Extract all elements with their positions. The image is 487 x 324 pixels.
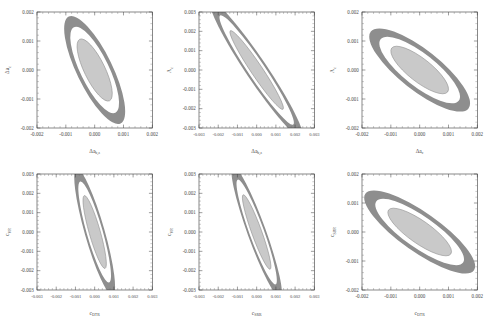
y-tick-label: 0.001 — [22, 38, 34, 44]
x-tick-label: 0.001 — [442, 131, 454, 137]
y-tick-label: 0.002 — [347, 9, 359, 15]
x-tick-label: 0.000 — [252, 132, 263, 137]
y-tick-label: -0.002 — [183, 267, 197, 273]
y-tick-label: 0.001 — [185, 47, 197, 53]
chart-panel-1: -0.002-0.0010.0000.0010.002-0.002-0.0010… — [0, 0, 162, 162]
y-tick-label: -0.002 — [345, 125, 359, 131]
y-tick-label: -0.001 — [183, 248, 197, 254]
contour-group-6 — [354, 178, 485, 287]
plot-area-6: -0.002-0.0010.0000.0010.002-0.002-0.0010… — [325, 162, 487, 324]
x-tick-label: 0.002 — [471, 293, 483, 299]
contour-1sigma — [239, 193, 275, 271]
x-axis-title-subscript: c — [421, 151, 423, 155]
x-tick-label: 0.000 — [90, 295, 101, 300]
y-tick-label: 0.000 — [185, 229, 197, 235]
y-tick-label: 0.002 — [185, 190, 197, 196]
y-tick-label: -0.002 — [21, 125, 35, 131]
x-axis-title: cDTR — [90, 310, 101, 318]
x-tick-label: 0.001 — [271, 132, 281, 137]
x-tick-label: -0.002 — [30, 131, 44, 137]
x-tick-label: -0.001 — [384, 293, 398, 299]
x-tick-label: -0.002 — [213, 295, 225, 300]
x-tick-label: 0.002 — [290, 132, 300, 137]
chart-panel-4: -0.003-0.002-0.0010.0000.0010.0020.003-0… — [0, 162, 162, 324]
plot-area-3: -0.002-0.0010.0000.0010.002-0.002-0.0010… — [325, 0, 487, 162]
x-axis-title-subscript: b,z — [95, 151, 100, 156]
x-axis-title: Δab,z — [89, 148, 100, 157]
y-tick-label: 0.000 — [22, 229, 34, 235]
y-tick-label: 0.000 — [22, 67, 34, 73]
x-tick-label: 0.001 — [109, 295, 119, 300]
x-tick-label: 0.002 — [290, 295, 300, 300]
x-tick-label: -0.002 — [213, 132, 225, 137]
y-tick-label: -0.003 — [183, 287, 197, 293]
y-tick-label: 0.001 — [185, 209, 197, 215]
chart-panel-6: -0.002-0.0010.0000.0010.002-0.002-0.0010… — [325, 162, 487, 324]
figure-panel-grid: -0.002-0.0010.0000.0010.002-0.002-0.0010… — [0, 0, 487, 324]
x-axis-title: cDTR — [414, 310, 425, 318]
plot-area-2: -0.003-0.002-0.0010.0000.0010.0020.003-0… — [162, 0, 324, 162]
x-tick-label: 0.001 — [271, 295, 281, 300]
chart-panel-2: -0.003-0.002-0.0010.0000.0010.0020.003-0… — [162, 0, 324, 162]
y-axis-title: cSRR — [329, 227, 336, 237]
x-axis-title-subscript: b,z — [258, 151, 263, 156]
x-tick-label: -0.003 — [194, 132, 206, 137]
chart-panel-5: -0.003-0.002-0.0010.0000.0010.0020.003-0… — [162, 162, 324, 324]
y-axis-title: cVR — [4, 228, 11, 236]
x-tick-label: 0.000 — [414, 131, 426, 137]
x-axis-title: Δac — [415, 148, 423, 156]
y-tick-label: 0.003 — [185, 9, 197, 15]
y-tick-label: 0.000 — [347, 67, 359, 73]
x-tick-label: -0.001 — [70, 295, 82, 300]
x-tick-label: 0.002 — [471, 131, 483, 137]
x-tick-label: -0.001 — [59, 131, 73, 137]
x-axis-title-subscript: DTR — [417, 314, 425, 318]
x-tick-label: -0.002 — [50, 295, 62, 300]
contour-group-4 — [67, 166, 122, 298]
x-tick-label: 0.003 — [147, 295, 158, 300]
x-tick-label: 0.003 — [310, 132, 321, 137]
contour-1sigma — [226, 28, 288, 113]
y-tick-label: 0.001 — [22, 209, 34, 215]
x-axis-title: Δab,z — [252, 148, 263, 157]
y-tick-label: 0.002 — [22, 9, 34, 15]
x-tick-label: -0.002 — [355, 131, 369, 137]
x-tick-label: -0.001 — [384, 131, 398, 137]
y-axis-title-subscript: c — [333, 67, 337, 69]
x-axis-title-subscript: DTR — [92, 314, 100, 318]
y-tick-label: 0.003 — [185, 171, 197, 177]
x-tick-label: 0.001 — [118, 131, 130, 137]
x-tick-label: 0.002 — [128, 295, 138, 300]
y-axis-title-subscript: c — [170, 67, 174, 69]
contour-group-5 — [225, 163, 290, 300]
x-axis-title-subscript: SRR — [255, 314, 263, 318]
y-tick-label: -0.001 — [21, 96, 35, 102]
y-axis-title: Λc — [167, 67, 174, 73]
y-tick-label: -0.002 — [183, 105, 197, 111]
x-tick-label: 0.001 — [442, 293, 454, 299]
x-tick-label: 0.003 — [310, 295, 321, 300]
y-axis-title: Δac — [4, 66, 11, 74]
y-tick-label: 0.000 — [185, 67, 197, 73]
plot-area-5: -0.003-0.002-0.0010.0000.0010.0020.003-0… — [162, 162, 324, 324]
y-axis-title-subscript: VR — [8, 228, 12, 234]
y-axis-title: Λc — [329, 67, 336, 73]
y-tick-label: -0.001 — [345, 96, 359, 102]
y-tick-label: -0.001 — [21, 248, 35, 254]
y-tick-label: -0.001 — [183, 86, 197, 92]
x-tick-label: 0.002 — [147, 131, 159, 137]
contour-group-1 — [53, 9, 137, 131]
plot-area-4: -0.003-0.002-0.0010.0000.0010.0020.003-0… — [0, 162, 162, 324]
y-tick-label: 0.002 — [185, 28, 197, 34]
x-tick-label: -0.003 — [194, 295, 206, 300]
y-tick-label: 0.003 — [22, 171, 34, 177]
x-tick-label: 0.000 — [414, 293, 426, 299]
x-tick-label: -0.002 — [355, 293, 369, 299]
y-tick-label: 0.000 — [347, 229, 359, 235]
x-tick-label: -0.001 — [232, 295, 244, 300]
y-axis-title-subscript: SRR — [333, 227, 337, 235]
y-tick-label: -0.003 — [21, 287, 35, 293]
y-axis-title: cVR — [167, 228, 174, 236]
y-tick-label: 0.001 — [347, 200, 359, 206]
y-tick-label: -0.002 — [345, 287, 359, 293]
